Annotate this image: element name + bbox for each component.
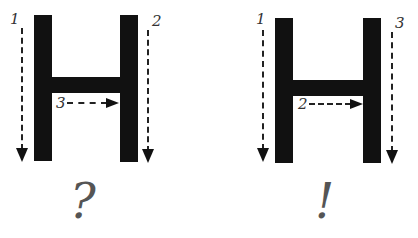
arrowhead-right-icon bbox=[350, 99, 363, 109]
panel-left-stroke-order: 1 2 3 ? bbox=[0, 0, 209, 238]
arrowhead-down-icon bbox=[386, 150, 398, 164]
h-crossbar-stroke bbox=[50, 77, 122, 93]
panel-right-stroke-order: 1 2 3 ! bbox=[209, 0, 418, 238]
arrowhead-right-icon bbox=[106, 98, 119, 108]
arrow-down-icon bbox=[262, 30, 264, 150]
verdict-exclamation-mark: ! bbox=[315, 177, 334, 225]
stroke-number-label: 2 bbox=[152, 14, 162, 29]
stroke-number-label: 1 bbox=[10, 12, 20, 27]
arrow-right-icon bbox=[67, 102, 107, 104]
arrowhead-down-icon bbox=[142, 149, 154, 163]
arrow-right-icon bbox=[309, 103, 351, 105]
verdict-question-mark: ? bbox=[70, 177, 96, 225]
arrow-down-icon bbox=[21, 28, 23, 150]
h-right-vertical-stroke bbox=[120, 15, 138, 162]
arrowhead-down-icon bbox=[257, 148, 269, 162]
stroke-number-label: 3 bbox=[395, 16, 405, 31]
arrow-down-icon bbox=[391, 32, 393, 152]
arrow-down-icon bbox=[147, 30, 149, 152]
stroke-number-label: 3 bbox=[56, 96, 66, 111]
arrowhead-down-icon bbox=[16, 148, 28, 162]
stroke-number-label: 1 bbox=[256, 12, 266, 27]
h-crossbar-stroke bbox=[291, 80, 365, 96]
stroke-number-label: 2 bbox=[298, 97, 308, 112]
h-right-vertical-stroke bbox=[363, 18, 381, 163]
